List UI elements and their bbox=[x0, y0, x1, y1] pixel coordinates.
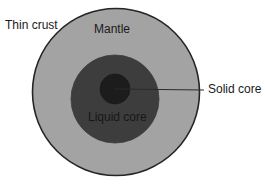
earth-cross-section-diagram: Thin crust Mantle Liquid core Solid core bbox=[0, 0, 265, 185]
label-liquid-core: Liquid core bbox=[88, 111, 147, 124]
label-solid-core: Solid core bbox=[208, 83, 261, 96]
label-thin-crust: Thin crust bbox=[5, 19, 58, 32]
label-mantle: Mantle bbox=[94, 23, 130, 36]
